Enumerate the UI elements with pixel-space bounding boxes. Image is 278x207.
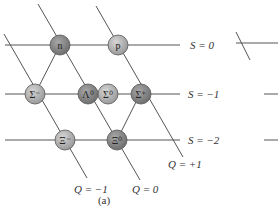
figure-label: (a) <box>98 194 111 207</box>
baryon-octet-diagram: n p Σ⁻ Λ⁰ Σ⁰ Σ⁺ Ξ⁻ Ξ⁰ S = 0 S = −1 S = −… <box>0 0 278 207</box>
label-s-minus1: S = −1 <box>188 88 219 100</box>
partial-diag-line <box>236 32 250 60</box>
label-q-plus1: Q = +1 <box>168 158 202 170</box>
particle-lambda0: Λ⁰ <box>78 84 98 104</box>
particle-xi-minus: Ξ⁻ <box>55 130 75 150</box>
particle-label: Σ⁻ <box>30 89 41 100</box>
particle-label: p <box>116 40 121 51</box>
particle-label: Ξ⁰ <box>112 135 122 146</box>
particle-sigma0: Σ⁰ <box>98 84 118 104</box>
particle-label: Ξ⁻ <box>59 135 70 146</box>
particle-label: Σ⁰ <box>103 89 113 100</box>
label-q0: Q = 0 <box>132 183 159 195</box>
particle-label: Σ⁺ <box>136 89 147 100</box>
particle-p: p <box>108 35 128 55</box>
particle-sigma-plus: Σ⁺ <box>131 84 151 104</box>
particle-n: n <box>50 35 70 55</box>
particle-xi0: Ξ⁰ <box>107 130 127 150</box>
particle-sigma-minus: Σ⁻ <box>25 84 45 104</box>
q-minus1-line <box>4 34 87 178</box>
label-s0: S = 0 <box>190 39 214 51</box>
particle-label: n <box>58 40 63 51</box>
particle-label: Λ⁰ <box>82 89 93 100</box>
label-s-minus2: S = −2 <box>188 134 220 146</box>
